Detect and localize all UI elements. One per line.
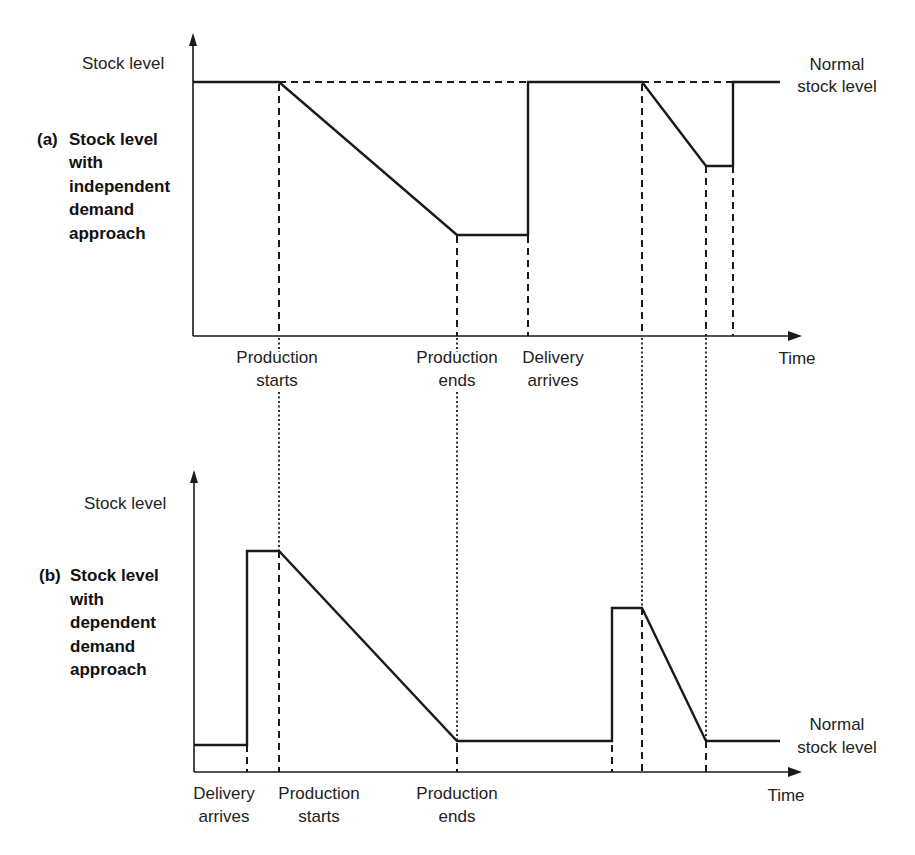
normal-stock-label-a-2: stock level <box>797 77 876 96</box>
panel-b-title-line-1: Stock level <box>70 566 159 585</box>
y-axis-label-b: Stock level <box>84 494 166 513</box>
panel-a-title-line-2: with <box>68 153 103 172</box>
event-label-b-3-line-1: Production <box>416 784 497 803</box>
stock-level-line-b <box>194 551 780 745</box>
event-label-b-3-line-2: ends <box>439 807 476 826</box>
stock-level-diagram: Stock level (a) Stock level with indepen… <box>0 0 915 855</box>
event-label-b-2-line-2: starts <box>298 807 340 826</box>
panel-a-prefix: (a) <box>37 130 58 149</box>
y-axis-arrow-icon <box>190 470 198 483</box>
panel-b-title-line-2: with <box>69 590 104 609</box>
event-label-b-1-line-1: Delivery <box>193 784 255 803</box>
normal-stock-label-b-2: stock level <box>797 738 876 757</box>
y-axis-label-a: Stock level <box>82 54 164 73</box>
panel-a-title-line-1: Stock level <box>69 130 158 149</box>
panel-b-title-line-3: dependent <box>70 613 156 632</box>
event-label-a-1-line-2: starts <box>256 371 298 390</box>
x-axis-arrow-icon <box>788 767 802 777</box>
event-label-b-1-line-2: arrives <box>198 807 249 826</box>
event-label-a-2-line-2: ends <box>439 371 476 390</box>
time-label-b: Time <box>767 786 804 805</box>
normal-stock-label-a-1: Normal <box>810 55 865 74</box>
event-label-a-3-line-2: arrives <box>527 371 578 390</box>
panel-b-title-line-5: approach <box>70 660 147 679</box>
panel-b-title-line-4: demand <box>70 637 135 656</box>
event-label-b-2-line-1: Production <box>278 784 359 803</box>
stock-level-line-a <box>193 82 780 235</box>
panel-a-title-line-5: approach <box>69 224 146 243</box>
event-label-a-2-line-1: Production <box>416 348 497 367</box>
panel-a-title-line-3: independent <box>69 177 170 196</box>
normal-stock-label-b-1: Normal <box>810 715 865 734</box>
x-axis-arrow-icon <box>788 331 802 341</box>
panel-a: Stock level (a) Stock level with indepen… <box>37 33 877 390</box>
panel-a-title-line-4: demand <box>69 200 134 219</box>
y-axis-arrow-icon <box>189 33 197 46</box>
panel-b-prefix: (b) <box>39 566 61 585</box>
event-label-a-3-line-1: Delivery <box>522 348 584 367</box>
event-label-a-1-line-1: Production <box>236 348 317 367</box>
time-label-a: Time <box>778 349 815 368</box>
